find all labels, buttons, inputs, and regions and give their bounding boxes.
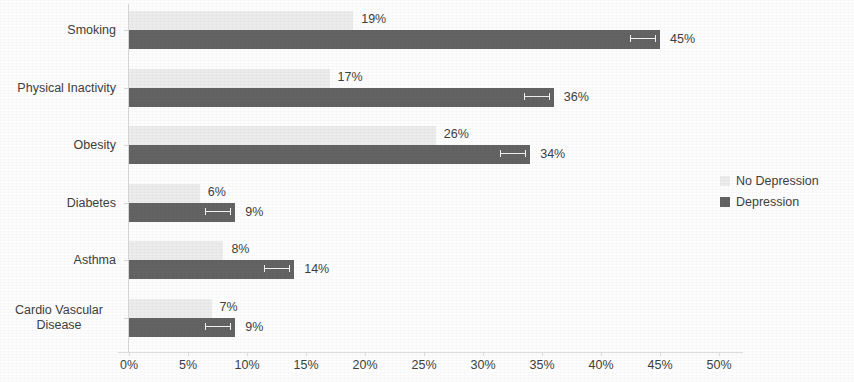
x-axis-tick-mark: [188, 352, 189, 356]
legend-item[interactable]: Depression: [720, 191, 819, 212]
x-axis-tick-mark: [365, 352, 366, 356]
bar-no-depression: [129, 184, 200, 203]
x-axis-tick-mark: [424, 352, 425, 356]
error-bar: [630, 38, 656, 39]
value-label-no-depression: 8%: [231, 242, 249, 256]
bar-no-depression: [129, 11, 353, 30]
category-label: Smoking: [0, 23, 116, 38]
value-label-no-depression: 17%: [338, 70, 363, 84]
x-axis-tick-label: 10%: [234, 358, 259, 372]
x-axis-tick-mark: [719, 352, 720, 356]
legend-label: Depression: [736, 195, 799, 209]
x-axis-tick-mark: [601, 352, 602, 356]
x-axis-tick-mark: [542, 352, 543, 356]
bar-depression: [129, 145, 530, 164]
bar-depression: [129, 203, 235, 222]
value-label-depression: 34%: [540, 147, 565, 161]
value-label-no-depression: 7%: [220, 300, 238, 314]
x-axis-tick-label: 50%: [706, 358, 731, 372]
x-axis-tick-mark: [247, 352, 248, 356]
x-axis-tick-mark: [483, 352, 484, 356]
x-axis-tick-label: 45%: [647, 358, 672, 372]
value-label-depression: 14%: [304, 262, 329, 276]
x-axis-tick-label: 0%: [120, 358, 138, 372]
legend-item[interactable]: No Depression: [720, 170, 819, 191]
bar-no-depression: [129, 241, 223, 260]
category-label: Physical Inactivity: [0, 81, 116, 96]
bar-depression: [129, 318, 235, 337]
error-bar: [205, 211, 231, 212]
value-label-no-depression: 26%: [444, 127, 469, 141]
value-label-no-depression: 19%: [361, 12, 386, 26]
bar-no-depression: [129, 69, 330, 88]
bar-depression: [129, 260, 294, 279]
x-axis-tick-label: 30%: [470, 358, 495, 372]
x-axis-tick-label: 20%: [352, 358, 377, 372]
value-label-no-depression: 6%: [208, 185, 226, 199]
chart-category-row: Asthma8%14%: [0, 241, 854, 299]
bar-no-depression: [129, 126, 436, 145]
chart-legend: No DepressionDepression: [720, 170, 819, 212]
chart-category-row: Physical Inactivity17%36%: [0, 69, 854, 127]
category-label: Cardio VascularDisease: [2, 303, 116, 333]
legend-swatch-icon: [720, 176, 730, 186]
chart-category-row: Cardio VascularDisease7%9%: [0, 299, 854, 357]
chart-category-row: Smoking19%45%: [0, 11, 854, 69]
value-label-depression: 9%: [245, 320, 263, 334]
x-axis-tick-label: 35%: [529, 358, 554, 372]
bar-no-depression: [129, 299, 212, 318]
bar-chart: Smoking19%45%Physical Inactivity17%36%Ob…: [0, 0, 854, 382]
x-axis-tick-mark: [660, 352, 661, 356]
x-axis-tick-label: 25%: [411, 358, 436, 372]
error-bar: [500, 153, 526, 154]
legend-label: No Depression: [736, 174, 819, 188]
category-label: Asthma: [0, 253, 116, 268]
bar-depression: [129, 88, 554, 107]
value-label-depression: 9%: [245, 205, 263, 219]
x-axis-tick-label: 5%: [179, 358, 197, 372]
error-bar: [524, 96, 550, 97]
value-label-depression: 36%: [564, 90, 589, 104]
bar-depression: [129, 30, 660, 49]
category-label: Obesity: [0, 138, 116, 153]
value-label-depression: 45%: [670, 32, 695, 46]
error-bar: [264, 268, 290, 269]
x-axis-tick-label: 15%: [293, 358, 318, 372]
x-axis-tick-mark: [129, 352, 130, 356]
category-label: Diabetes: [0, 196, 116, 211]
legend-swatch-icon: [720, 197, 730, 207]
x-axis-tick-label: 40%: [588, 358, 613, 372]
error-bar: [205, 326, 231, 327]
x-axis-tick-mark: [306, 352, 307, 356]
